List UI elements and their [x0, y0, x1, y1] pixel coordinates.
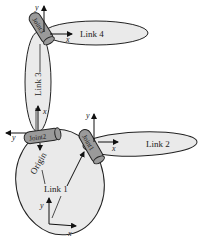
- base-x-label: x: [67, 229, 72, 238]
- link-2-label: Link 2: [146, 139, 170, 149]
- link-1-label: Link 1: [44, 184, 68, 194]
- joint-2-x-label: x: [42, 107, 47, 116]
- base-y-label: y: [39, 201, 44, 210]
- link-3-label: Link 3: [33, 72, 43, 96]
- joint-2-y-label: y: [11, 133, 16, 142]
- joint-3-x-label: x: [65, 35, 70, 44]
- link-4-label: Link 4: [80, 29, 104, 39]
- joint-1-y-label: y: [85, 111, 90, 120]
- joint-1-x-label: x: [111, 144, 116, 153]
- joint-3-y-label: y: [34, 3, 39, 12]
- robot-arm-diagram: Joint3 Joint2 Joint1 y x Link 3 x y Orig…: [0, 0, 204, 239]
